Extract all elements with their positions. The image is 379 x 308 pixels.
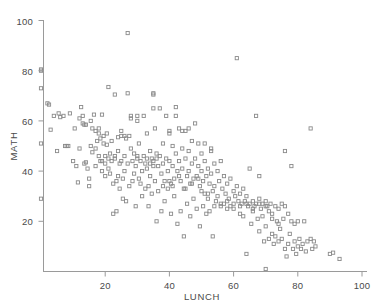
data-point-marker	[75, 164, 78, 167]
y-axis-tick-label: 100	[0, 15, 33, 26]
data-point-marker	[235, 57, 238, 60]
data-point-marker	[214, 200, 217, 203]
data-point-marker	[161, 162, 164, 165]
data-point-marker	[115, 210, 118, 213]
data-point-marker	[115, 180, 118, 183]
data-point-marker	[104, 154, 107, 157]
data-point-marker	[206, 197, 209, 200]
data-point-marker	[328, 252, 331, 255]
data-point-marker	[97, 154, 100, 157]
data-point-marker	[271, 217, 274, 220]
data-point-marker	[177, 127, 180, 130]
data-point-marker	[39, 142, 42, 145]
data-point-marker	[88, 177, 91, 180]
y-axis-ticks	[39, 21, 44, 222]
data-point-marker	[96, 139, 99, 142]
data-point-marker	[155, 220, 158, 223]
data-point-marker	[229, 177, 232, 180]
data-point-marker	[261, 202, 264, 205]
data-point-marker	[155, 152, 158, 155]
data-point-marker	[59, 116, 62, 119]
data-point-marker	[174, 152, 177, 155]
data-point-marker	[202, 180, 205, 183]
data-point-marker	[139, 182, 142, 185]
data-point-marker	[208, 210, 211, 213]
data-point-marker	[193, 157, 196, 160]
data-point-marker	[176, 222, 179, 225]
data-point-marker	[78, 117, 81, 120]
data-point-marker	[89, 119, 92, 122]
data-point-marker	[200, 170, 203, 173]
data-point-marker	[107, 85, 110, 88]
data-point-marker	[152, 107, 155, 110]
data-point-marker	[288, 232, 291, 235]
data-point-marker	[182, 235, 185, 238]
data-point-marker	[285, 255, 288, 258]
data-point-marker	[174, 106, 177, 109]
x-axis-ticks	[105, 272, 362, 277]
data-point-marker	[166, 187, 169, 190]
data-point-marker	[210, 172, 213, 175]
data-point-marker	[261, 215, 264, 218]
data-point-marker	[94, 164, 97, 167]
data-point-marker	[295, 252, 298, 255]
data-point-marker	[134, 164, 137, 167]
y-axis-tick-label: 40	[0, 166, 33, 177]
data-point-marker	[121, 177, 124, 180]
data-point-marker	[202, 205, 205, 208]
data-point-marker	[110, 139, 113, 142]
data-point-marker	[197, 142, 200, 145]
data-point-marker	[92, 113, 95, 116]
data-point-marker	[149, 162, 152, 165]
data-point-marker	[282, 217, 285, 220]
data-point-marker	[113, 93, 116, 96]
data-point-marker	[235, 185, 238, 188]
data-point-marker	[120, 129, 123, 132]
data-point-marker	[144, 162, 147, 165]
data-point-marker	[245, 252, 248, 255]
data-point-marker	[124, 200, 127, 203]
data-point-marker	[94, 147, 97, 150]
data-point-marker	[203, 159, 206, 162]
data-point-marker	[81, 114, 84, 117]
data-point-marker	[57, 112, 60, 115]
data-point-marker	[211, 235, 214, 238]
data-point-marker	[136, 119, 139, 122]
data-point-marker	[126, 31, 129, 34]
data-point-marker	[309, 127, 312, 130]
data-point-marker	[52, 114, 55, 117]
plot-canvas	[0, 0, 379, 308]
data-point-marker	[160, 172, 163, 175]
data-point-marker	[185, 202, 188, 205]
data-point-marker	[213, 205, 216, 208]
data-point-marker	[153, 127, 156, 130]
data-point-marker	[332, 251, 335, 254]
data-point-marker	[184, 129, 187, 132]
data-point-marker	[213, 185, 216, 188]
data-point-marker	[55, 149, 58, 152]
data-point-marker	[200, 152, 203, 155]
data-point-marker	[100, 113, 103, 116]
data-point-marker	[258, 197, 261, 200]
data-point-marker	[187, 170, 190, 173]
data-point-marker	[303, 220, 306, 223]
data-point-marker	[267, 237, 270, 240]
data-point-marker	[291, 247, 294, 250]
data-markers-layer	[39, 31, 341, 270]
data-point-marker	[283, 149, 286, 152]
data-point-marker	[238, 212, 241, 215]
data-point-marker	[86, 167, 89, 170]
data-point-marker	[198, 225, 201, 228]
data-point-marker	[132, 172, 135, 175]
data-point-marker	[274, 205, 277, 208]
data-point-marker	[287, 242, 290, 245]
data-point-marker	[145, 132, 148, 135]
data-point-marker	[314, 245, 317, 248]
data-point-marker	[160, 210, 163, 213]
data-point-marker	[189, 215, 192, 218]
data-point-marker	[97, 127, 100, 130]
data-point-marker	[312, 240, 315, 243]
data-point-marker	[129, 147, 132, 150]
data-point-marker	[221, 187, 224, 190]
y-axis-tick-label: 60	[0, 115, 33, 126]
